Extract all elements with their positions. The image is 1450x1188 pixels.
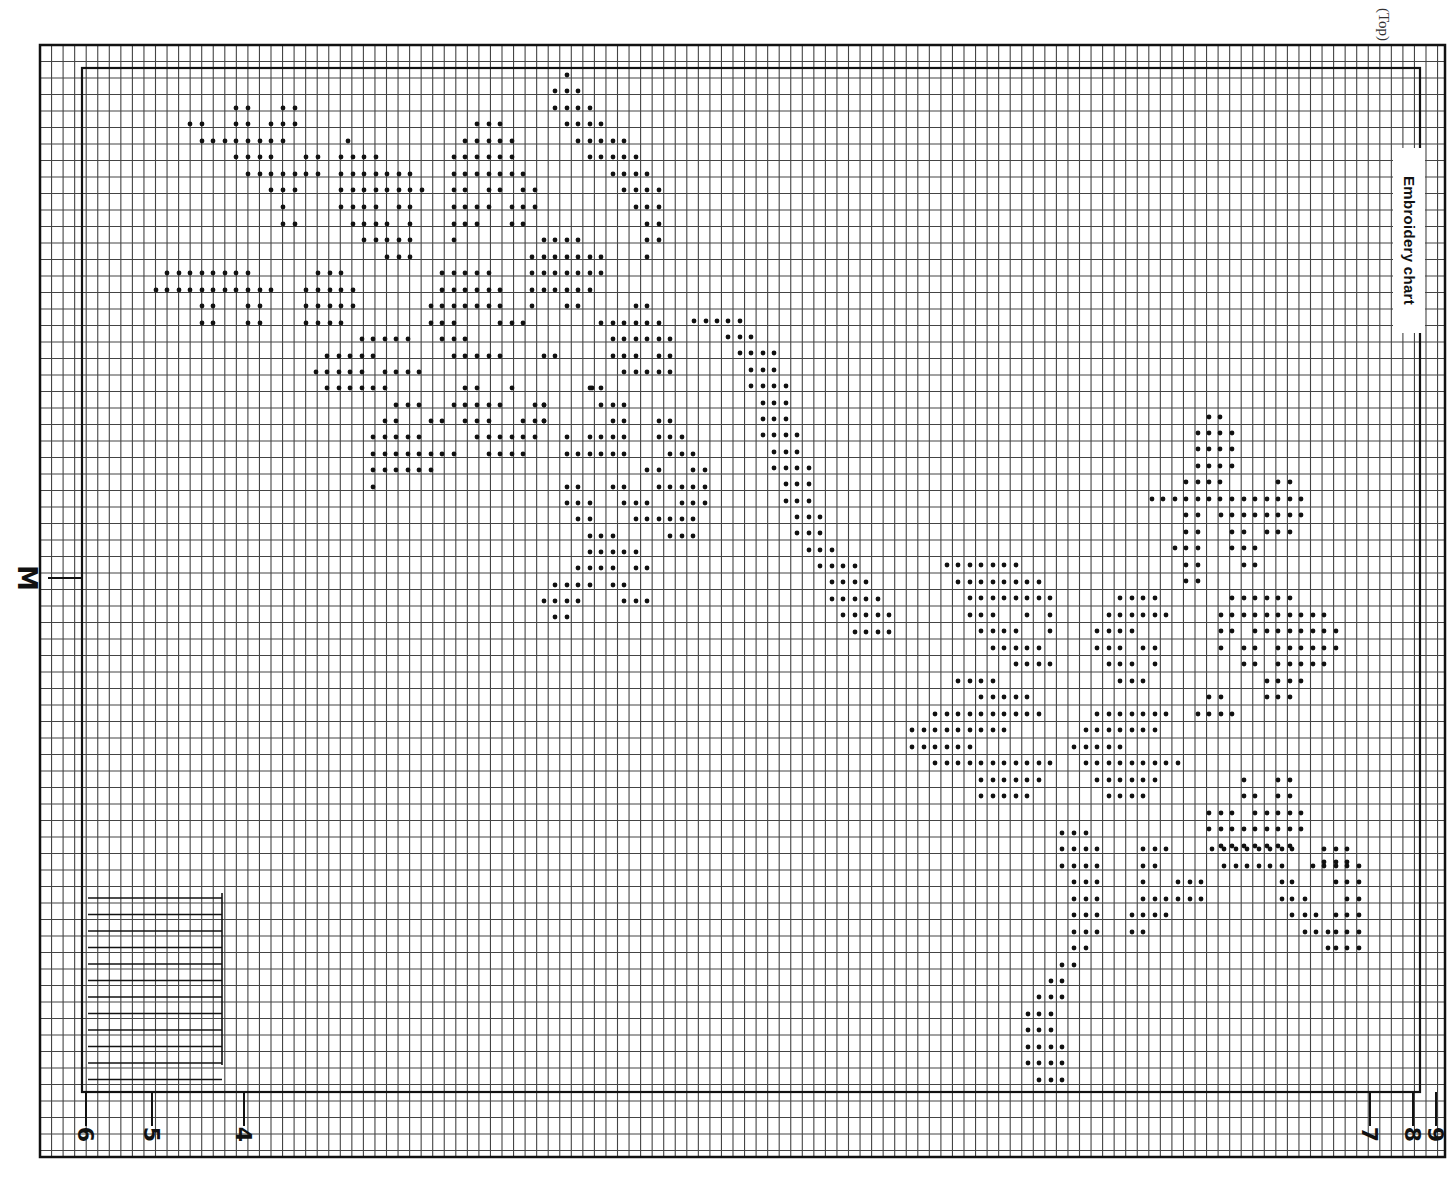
stitch-dot bbox=[408, 172, 413, 177]
stitch-dot bbox=[599, 403, 604, 408]
stitch-dot bbox=[406, 452, 411, 457]
stitch-dot bbox=[945, 563, 950, 568]
stitch-dot bbox=[1164, 913, 1169, 918]
stitch-dot bbox=[1014, 662, 1019, 667]
stitch-dot bbox=[922, 728, 927, 733]
stitch-dot bbox=[362, 172, 367, 177]
stitch-dot bbox=[325, 386, 330, 391]
stitch-dot bbox=[634, 550, 639, 555]
stitch-dot bbox=[417, 452, 422, 457]
stitch-dot bbox=[576, 304, 581, 309]
stitch-dot bbox=[588, 271, 593, 276]
stitch-dot bbox=[498, 304, 503, 309]
stitch-dot bbox=[991, 778, 996, 783]
stitch-dot bbox=[1207, 497, 1212, 502]
stitch-dot bbox=[1218, 497, 1223, 502]
stitch-dot bbox=[1164, 847, 1169, 852]
stitch-dot bbox=[258, 155, 263, 160]
stitch-dot bbox=[1265, 629, 1270, 634]
stitch-dot bbox=[542, 419, 547, 424]
stitch-dot bbox=[1357, 913, 1362, 918]
stitch-dot bbox=[463, 403, 468, 408]
stitch-dot bbox=[1280, 897, 1285, 902]
stitch-dot bbox=[1141, 930, 1146, 935]
stitch-dot bbox=[599, 550, 604, 555]
stitch-dot bbox=[521, 205, 526, 210]
stitch-dot bbox=[1268, 847, 1273, 852]
stitch-dot bbox=[979, 761, 984, 766]
stitch-dot bbox=[991, 563, 996, 568]
stitch-dot bbox=[510, 386, 515, 391]
stitch-dot bbox=[498, 155, 503, 160]
stitch-dot bbox=[510, 435, 515, 440]
stitch-dot bbox=[979, 679, 984, 684]
stitch-dot bbox=[351, 205, 356, 210]
stitch-dot bbox=[1150, 497, 1155, 502]
stitch-dot bbox=[360, 386, 365, 391]
stitch-dot bbox=[772, 351, 777, 356]
stitch-dot bbox=[339, 288, 344, 293]
stitch-dot bbox=[1118, 629, 1123, 634]
stitch-dot bbox=[588, 501, 593, 506]
stitch-dot bbox=[1107, 745, 1112, 750]
motif-third-flower bbox=[429, 122, 538, 326]
scale-label-9: 9 bbox=[1423, 1127, 1448, 1142]
stitch-dot bbox=[383, 337, 388, 342]
stitch-dot bbox=[293, 222, 298, 227]
stitch-dot bbox=[1303, 913, 1308, 918]
stitch-dot bbox=[784, 450, 789, 455]
stitch-dot bbox=[1173, 546, 1178, 551]
stitch-dot bbox=[1218, 415, 1223, 420]
stitch-dot bbox=[371, 452, 376, 457]
stitch-dot bbox=[325, 370, 330, 375]
stitch-dot bbox=[1196, 563, 1201, 568]
stitch-dot bbox=[406, 435, 411, 440]
stitch-dot bbox=[611, 172, 616, 177]
stitch-dot bbox=[991, 794, 996, 799]
stitch-dot bbox=[1253, 497, 1258, 502]
stitch-dot bbox=[1276, 480, 1281, 485]
stitch-dot bbox=[440, 419, 445, 424]
stitch-dot bbox=[1118, 761, 1123, 766]
stitch-dot bbox=[611, 583, 616, 588]
stitch-dot bbox=[761, 417, 766, 422]
stitch-dot bbox=[1060, 1061, 1065, 1066]
stitch-dot bbox=[622, 321, 627, 326]
stitch-dot bbox=[360, 337, 365, 342]
stitch-dot bbox=[1153, 596, 1158, 601]
stitch-dot bbox=[1196, 464, 1201, 469]
stitch-dot bbox=[599, 534, 604, 539]
stitch-dot bbox=[749, 351, 754, 356]
stitch-dot bbox=[1141, 728, 1146, 733]
stitch-dot bbox=[383, 452, 388, 457]
stitch-dot bbox=[1037, 1045, 1042, 1050]
stitch-dot bbox=[1345, 913, 1350, 918]
stitch-dot bbox=[1253, 563, 1258, 568]
stitch-dot bbox=[1048, 629, 1053, 634]
stitch-dot bbox=[533, 205, 538, 210]
stitch-dot bbox=[487, 419, 492, 424]
stitch-dot bbox=[530, 304, 535, 309]
stitch-dot bbox=[246, 139, 251, 144]
stitch-dot bbox=[1276, 778, 1281, 783]
stitch-dot bbox=[680, 501, 685, 506]
stitch-dot bbox=[553, 106, 558, 111]
stitch-dot bbox=[1253, 513, 1258, 518]
stitch-dot bbox=[246, 271, 251, 276]
stitch-dot bbox=[1210, 847, 1215, 852]
stitch-dot bbox=[383, 419, 388, 424]
stitch-dot bbox=[533, 403, 538, 408]
stitch-dot bbox=[1141, 761, 1146, 766]
stitch-dot bbox=[487, 288, 492, 293]
stitch-dot bbox=[864, 630, 869, 635]
stitch-dot bbox=[258, 288, 263, 293]
stitch-dot bbox=[1084, 913, 1089, 918]
stitch-dot bbox=[1118, 712, 1123, 717]
stitch-dot bbox=[521, 188, 526, 193]
stitch-dot bbox=[1334, 864, 1339, 869]
stitch-dot bbox=[922, 745, 927, 750]
stitch-dot bbox=[463, 188, 468, 193]
stitch-dot bbox=[246, 122, 251, 127]
stitch-dot bbox=[1072, 847, 1077, 852]
stitch-dot bbox=[1253, 662, 1258, 667]
